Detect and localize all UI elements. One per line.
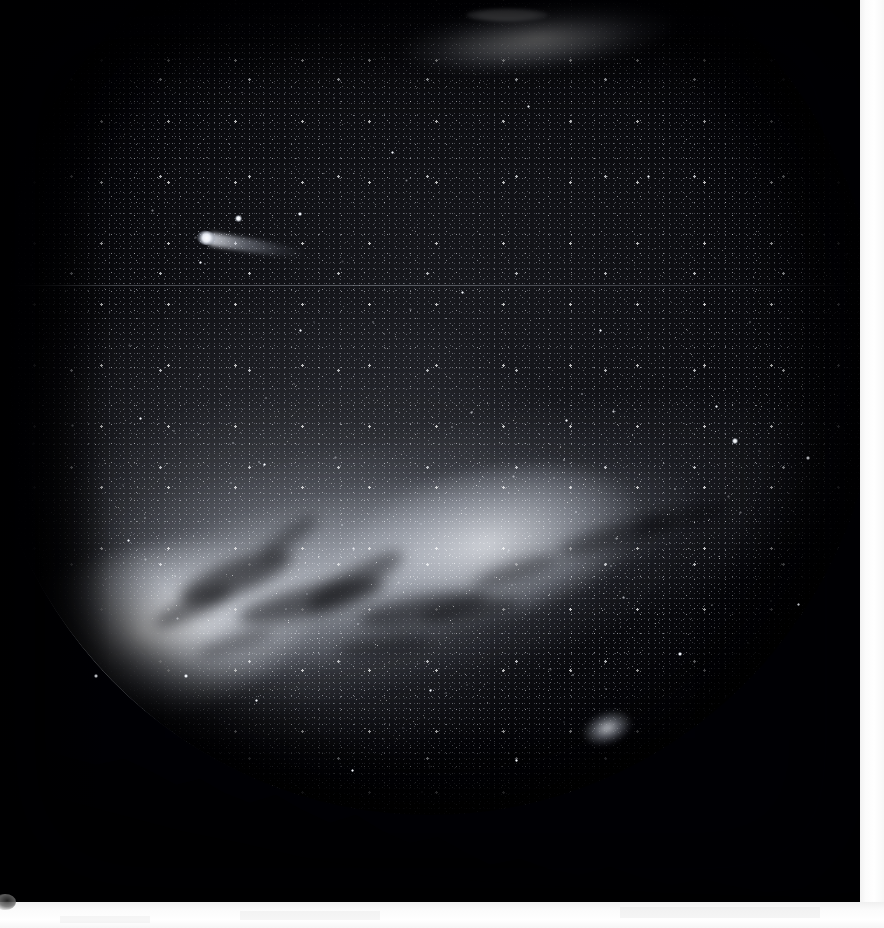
- field-star: [575, 640, 576, 641]
- field-star: [479, 358, 480, 359]
- field-star: [414, 726, 415, 727]
- field-star: [642, 650, 643, 651]
- field-star: [638, 569, 639, 570]
- field-star: [470, 461, 471, 462]
- field-star: [357, 623, 359, 625]
- field-star: [336, 645, 337, 646]
- field-star: [624, 299, 625, 300]
- field-star: [781, 289, 782, 290]
- field-star: [591, 524, 592, 525]
- field-star: [620, 622, 621, 623]
- field-star: [576, 497, 577, 498]
- field-star: [403, 592, 404, 593]
- field-star: [225, 469, 226, 470]
- field-star: [258, 696, 259, 697]
- margin-smudge: [60, 916, 150, 923]
- field-star: [412, 230, 413, 231]
- field-star: [170, 90, 171, 91]
- field-star: [396, 411, 397, 412]
- field-star: [284, 647, 285, 648]
- field-star: [303, 499, 304, 500]
- field-star: [137, 487, 138, 488]
- field-star: [399, 412, 400, 413]
- field-star: [341, 696, 342, 697]
- field-star: [172, 575, 173, 576]
- field-star: [343, 508, 344, 509]
- field-star: [513, 420, 514, 421]
- field-star: [410, 293, 411, 294]
- field-star: [624, 652, 625, 653]
- field-star: [539, 573, 540, 574]
- bright-star: [527, 105, 530, 108]
- field-star: [261, 113, 262, 114]
- field-star: [172, 223, 174, 225]
- field-star: [750, 238, 751, 239]
- field-star: [404, 519, 405, 520]
- field-star: [571, 431, 572, 432]
- field-star: [380, 391, 381, 392]
- field-star: [41, 572, 42, 573]
- field-star: [687, 330, 688, 331]
- field-star: [651, 602, 652, 603]
- field-star: [530, 320, 531, 321]
- field-star: [356, 359, 357, 360]
- field-star: [374, 449, 375, 450]
- field-star: [653, 504, 654, 505]
- field-star: [90, 599, 91, 600]
- field-star: [766, 628, 767, 629]
- field-star: [261, 660, 262, 661]
- field-star: [423, 715, 424, 716]
- field-star: [67, 457, 68, 458]
- field-star: [235, 489, 236, 490]
- field-star: [673, 509, 674, 510]
- field-star: [342, 124, 343, 125]
- field-star: [372, 482, 373, 483]
- field-star: [741, 467, 742, 468]
- print-margin-bottom: [0, 902, 884, 928]
- field-star: [32, 534, 33, 535]
- field-star: [523, 345, 524, 346]
- field-star: [341, 485, 342, 486]
- field-star: [412, 438, 413, 439]
- field-star: [772, 466, 773, 467]
- field-star: [799, 594, 800, 595]
- field-star: [802, 384, 803, 385]
- field-star: [516, 652, 517, 653]
- field-star: [20, 375, 21, 376]
- bright-star: [255, 699, 258, 702]
- field-star: [172, 633, 173, 634]
- bright-star: [715, 405, 718, 408]
- field-star: [306, 593, 308, 595]
- field-star: [193, 315, 194, 316]
- bright-star: [351, 769, 354, 772]
- field-star: [409, 308, 412, 311]
- field-star: [127, 680, 129, 682]
- field-star: [568, 518, 569, 519]
- field-star: [489, 362, 490, 363]
- field-star: [480, 297, 481, 298]
- field-star: [649, 531, 650, 532]
- field-star: [595, 158, 596, 159]
- field-star: [730, 615, 731, 616]
- field-star: [377, 400, 378, 401]
- field-star: [505, 332, 506, 333]
- field-star: [360, 175, 361, 176]
- field-star: [174, 575, 176, 577]
- field-star: [81, 597, 82, 598]
- field-star: [364, 608, 365, 609]
- field-star: [319, 578, 320, 579]
- field-star: [705, 711, 706, 712]
- field-star: [18, 469, 19, 470]
- field-star: [634, 265, 635, 266]
- field-star: [220, 753, 221, 754]
- field-star: [654, 466, 655, 467]
- field-star: [249, 702, 250, 703]
- field-star: [439, 497, 440, 498]
- field-star: [525, 209, 526, 210]
- field-star: [302, 452, 303, 453]
- field-star: [823, 434, 824, 435]
- field-star: [618, 425, 619, 426]
- field-star: [564, 458, 565, 459]
- field-star: [805, 161, 806, 162]
- field-star: [122, 484, 124, 486]
